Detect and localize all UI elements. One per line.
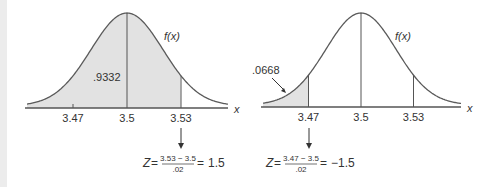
area-label-right: .0668 — [252, 64, 280, 76]
formula-numerator-right: 3.47 − 3.5 — [283, 154, 319, 163]
tick-label: 3.47 — [298, 111, 319, 123]
area-label-left: .9332 — [93, 71, 121, 83]
arrow-head-right — [306, 143, 312, 149]
shaded-area-left — [27, 13, 181, 108]
tick-label: 3.47 — [62, 112, 83, 124]
tick-label: 3.5 — [119, 112, 134, 124]
tick-label: 3.5 — [353, 111, 368, 123]
equals-sign: = — [197, 156, 204, 170]
pointer-arrow-right — [272, 78, 284, 90]
chart-left: 3.47 3.5 3.53 x f(x) .9332 Z = 3.53 − 3.… — [25, 13, 240, 174]
equals-sign: = — [151, 156, 158, 170]
formula-result-left: 1.5 — [208, 156, 225, 170]
equals-sign: = — [274, 156, 281, 170]
formula-numerator-left: 3.53 − 3.5 — [160, 154, 196, 163]
equals-sign: = — [320, 156, 327, 170]
normal-distribution-figure: 3.47 3.5 3.53 x f(x) .9332 Z = 3.53 − 3.… — [0, 0, 494, 187]
x-axis-label-left: x — [233, 103, 240, 115]
chart-right: 3.47 3.5 3.53 x f(x) .0668 Z = 3.47 − 3.… — [252, 13, 473, 174]
tick-label: 3.53 — [403, 111, 424, 123]
arrow-head-left — [178, 143, 184, 149]
pointer-arrow-head-right — [281, 88, 286, 93]
x-axis-label-right: x — [466, 102, 473, 114]
formula-denominator-left: .02 — [172, 165, 184, 174]
curve-label-right: f(x) — [395, 30, 411, 42]
density-curve-right — [263, 13, 461, 103]
formula-lhs-right: Z — [265, 156, 274, 170]
formula-lhs-left: Z — [142, 156, 151, 170]
tick-label: 3.53 — [170, 112, 191, 124]
curve-label-left: f(x) — [164, 30, 180, 42]
formula-denominator-right: .02 — [295, 165, 307, 174]
formula-result-right: −1.5 — [331, 156, 355, 170]
